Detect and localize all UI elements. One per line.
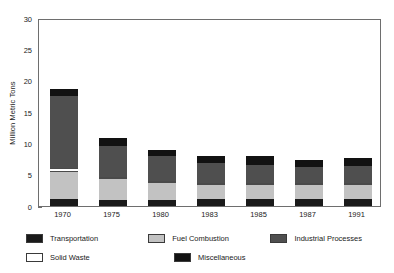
x-axis-tick-label: 1987 bbox=[286, 210, 330, 219]
legend-item[interactable]: Fuel Combustion bbox=[148, 234, 270, 243]
y-axis-tick-label: 20 bbox=[0, 76, 38, 87]
x-axis-tick-label: 1983 bbox=[188, 210, 232, 219]
bar-stack bbox=[246, 156, 274, 206]
bar-segment bbox=[344, 199, 372, 206]
legend-row: TransportationFuel CombustionIndustrial … bbox=[26, 229, 386, 248]
y-axis-tick-label: 5 bbox=[0, 170, 38, 181]
bar-segment bbox=[50, 89, 78, 96]
bar-segment bbox=[295, 199, 323, 206]
bar-stack bbox=[295, 160, 323, 206]
y-axis-tick-label: 10 bbox=[0, 139, 38, 150]
legend-item[interactable]: Industrial Processes bbox=[270, 234, 386, 243]
x-axis-tick-label: 1970 bbox=[41, 210, 85, 219]
legend: TransportationFuel CombustionIndustrial … bbox=[26, 229, 386, 267]
bar-segment bbox=[344, 158, 372, 166]
bar-segment bbox=[148, 200, 176, 206]
legend-item[interactable]: Transportation bbox=[26, 234, 148, 243]
bar-segment bbox=[344, 185, 372, 199]
legend-label: Fuel Combustion bbox=[172, 234, 229, 243]
bar-segment bbox=[344, 166, 372, 184]
y-axis-tick-label: 15 bbox=[0, 108, 38, 119]
bar-segment bbox=[50, 96, 78, 168]
legend-row: Solid WasteMiscellaneous bbox=[26, 248, 386, 267]
x-axis-tick-label: 1975 bbox=[90, 210, 134, 219]
bar-stack bbox=[99, 138, 127, 206]
bar-segment bbox=[246, 199, 274, 206]
bar-segment bbox=[148, 183, 176, 200]
legend-item[interactable]: Solid Waste bbox=[26, 253, 174, 262]
bar-segment bbox=[295, 160, 323, 167]
bar-segment bbox=[197, 199, 225, 206]
x-axis-tick-label: 1980 bbox=[139, 210, 183, 219]
bar-segment bbox=[50, 199, 78, 206]
bar-segment bbox=[99, 146, 127, 177]
legend-swatch-icon bbox=[174, 253, 191, 262]
bar-segment bbox=[148, 150, 176, 157]
legend-item[interactable]: Miscellaneous bbox=[174, 253, 322, 262]
chart-figure: Million Metric Tons 051015202530 1970197… bbox=[0, 0, 394, 273]
x-axis-tick-label: 1985 bbox=[237, 210, 281, 219]
bar-segment bbox=[50, 172, 78, 200]
y-axis-tick-label: 25 bbox=[0, 45, 38, 56]
bar-stack bbox=[148, 150, 176, 207]
bar-stack bbox=[344, 158, 372, 206]
bar-segment bbox=[197, 185, 225, 199]
bar-segment bbox=[99, 138, 127, 146]
bar-stack bbox=[50, 89, 78, 206]
y-axis-tick-label: 0 bbox=[0, 202, 38, 213]
legend-swatch-icon bbox=[270, 234, 287, 243]
bar-segment bbox=[197, 163, 225, 182]
bar-segment bbox=[246, 156, 274, 164]
plot-area bbox=[38, 19, 381, 207]
bar-segment bbox=[99, 179, 127, 200]
legend-label: Miscellaneous bbox=[198, 253, 246, 262]
bar-segment bbox=[197, 156, 225, 164]
legend-swatch-icon bbox=[148, 234, 165, 243]
bar-segment bbox=[246, 185, 274, 199]
y-axis-tick-label: 30 bbox=[0, 14, 38, 25]
legend-swatch-icon bbox=[26, 253, 43, 262]
x-axis-tick-label: 1991 bbox=[335, 210, 379, 219]
legend-label: Transportation bbox=[50, 234, 98, 243]
bar-segment bbox=[295, 167, 323, 183]
bar-stack bbox=[197, 156, 225, 206]
legend-label: Solid Waste bbox=[50, 253, 90, 262]
bar-segment bbox=[99, 200, 127, 206]
bar-segment bbox=[148, 156, 176, 180]
legend-swatch-icon bbox=[26, 234, 43, 243]
legend-label: Industrial Processes bbox=[294, 234, 362, 243]
bar-segment bbox=[295, 185, 323, 199]
bar-segment bbox=[246, 165, 274, 183]
